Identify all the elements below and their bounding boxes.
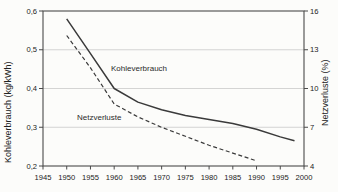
right-tick-label: 4 (310, 162, 314, 171)
x-tick-label: 1955 (82, 173, 99, 182)
x-tick-label: 1965 (129, 173, 146, 182)
right-tick-label: 13 (310, 45, 318, 54)
x-tick-label: 1990 (248, 173, 265, 182)
right-axis-title: Netzverluste (%) (320, 59, 330, 126)
left-axis-title: Kohleverbrauch (kg/kWh) (3, 61, 13, 163)
left-tick-label: 0,6 (26, 7, 37, 16)
x-tick-label: 1980 (201, 173, 218, 182)
x-tick-label: 1945 (35, 173, 52, 182)
right-tick-label: 10 (310, 84, 318, 93)
series-line-netzverluste (67, 36, 257, 161)
left-tick-label: 0,2 (26, 162, 37, 171)
x-tick-label: 1950 (58, 173, 75, 182)
right-tick-label: 7 (310, 123, 314, 132)
left-tick-label: 0,5 (26, 45, 37, 54)
left-tick-label: 0,3 (26, 123, 37, 132)
left-tick-label: 0,4 (26, 84, 37, 93)
series-label-kohleverbrauch: Kohleverbrauch (111, 64, 167, 73)
series-label-netzverluste: Netzverluste (77, 113, 121, 122)
series-line-kohleverbrauch (67, 19, 295, 141)
plot-area: 0,60,50,40,30,21613107419451950195519601… (0, 0, 338, 192)
right-tick-label: 16 (310, 7, 318, 16)
x-tick-label: 1995 (272, 173, 289, 182)
x-tick-label: 1985 (224, 173, 241, 182)
x-tick-label: 1970 (153, 173, 170, 182)
x-tick-label: 2000 (296, 173, 313, 182)
dual-axis-line-chart: 0,60,50,40,30,21613107419451950195519601… (0, 0, 338, 192)
x-tick-label: 1975 (177, 173, 194, 182)
x-tick-label: 1960 (106, 173, 123, 182)
